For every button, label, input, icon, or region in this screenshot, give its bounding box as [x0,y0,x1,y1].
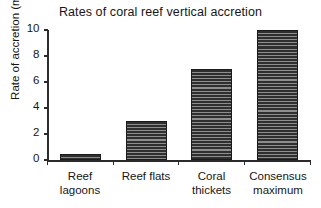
x-tick-3 [244,161,245,165]
x-category-label-line2: lagoons [44,184,116,198]
y-tick-label-2: 2 [33,126,39,139]
y-tick-10: 10 [44,29,48,30]
chart-title: Rates of coral reef vertical accretion [0,5,321,20]
x-category-label-line1: Coral [176,170,248,184]
y-tick-6: 6 [44,81,48,82]
plot-area: 0 2 4 6 8 10 Reef lagoons [47,28,311,162]
x-tick-2 [178,161,179,165]
bar-coral-thickets [191,69,232,160]
y-tick-2: 2 [44,133,48,134]
y-tick-label-0: 0 [33,152,39,165]
x-category-label-line1: Reef flats [110,170,182,184]
y-tick-label-8: 8 [33,48,39,61]
x-category-label-line1: Reef [44,170,116,184]
y-axis-label: Rate of accretion (mm/yr) [7,0,23,102]
x-tick-4 [310,161,311,165]
bar-chart-figure: Rates of coral reef vertical accretion R… [0,0,321,208]
y-tick-label-4: 4 [33,100,39,113]
x-tick-1 [113,161,114,165]
x-category-label-coral-thickets: Coral thickets [176,170,248,197]
y-tick-4: 4 [44,107,48,108]
x-category-label-consensus-maximum: Consensus maximum [240,170,316,197]
x-category-label-reef-flats: Reef flats [110,170,182,184]
y-tick-8: 8 [44,55,48,56]
bar-consensus-maximum [257,30,298,160]
y-axis-label-text: Rate of accretion (mm/yr) [9,0,22,100]
bar-reef-flats [126,121,167,160]
y-tick-label-6: 6 [33,74,39,87]
x-category-label-line1: Consensus [240,170,316,184]
y-tick-label-10: 10 [27,22,40,35]
y-axis-spine [47,30,49,161]
x-category-label-reef-lagoons: Reef lagoons [44,170,116,197]
bar-reef-lagoons [60,154,101,161]
x-category-label-line2: maximum [240,184,316,198]
x-tick-0 [47,161,48,165]
x-category-label-line2: thickets [176,184,248,198]
